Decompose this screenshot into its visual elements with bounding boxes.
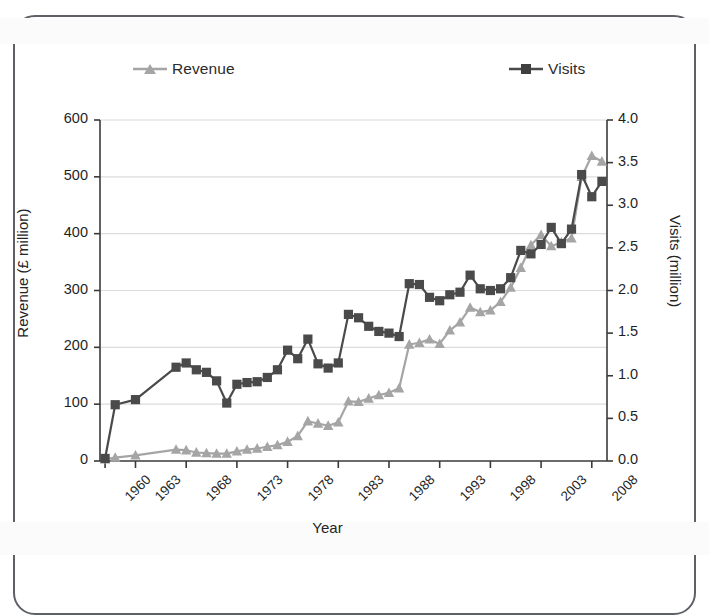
y-axis-left-tick-label: 300 [42,281,88,297]
y-axis-right-tick-label: 0.0 [618,451,664,467]
y-axis-left-title-text: Revenue (£ million) [14,168,31,378]
data-point [171,363,180,372]
triangle-marker-icon [133,62,167,76]
data-point [334,358,343,367]
data-point [344,310,353,319]
y-axis-left-title: Revenue (£ million) [14,0,31,168]
legend-entry-revenue[interactable]: Revenue [133,62,235,76]
data-point [202,368,211,377]
data-point [526,249,535,258]
data-point [547,223,556,232]
y-axis-right-tick-label: 2.5 [618,238,664,254]
x-axis-title: Year [0,519,655,536]
data-point [131,395,140,404]
data-point [597,177,606,186]
data-point [587,150,597,160]
y-axis-left-tick-label: 400 [42,224,88,240]
y-axis-left-tick-label: 600 [42,110,88,126]
data-point [293,354,302,363]
y-axis-right-tick-label: 2.0 [618,281,664,297]
y-axis-left-tick-label: 200 [42,337,88,353]
data-point [496,284,505,293]
axis-ticks [94,120,613,468]
data-point [424,334,434,344]
data-point [516,246,525,255]
data-point [466,271,475,280]
legend-label-revenue: Revenue [172,62,235,76]
data-point [567,225,576,234]
data-point [313,359,322,368]
data-point [222,398,231,407]
series-line [105,156,602,459]
data-series [100,150,607,463]
data-point [506,273,515,282]
data-point [282,436,292,446]
data-point [100,454,109,463]
data-point [253,377,262,386]
data-point [587,192,596,201]
data-point [394,383,404,393]
data-point [435,296,444,305]
y-axis-right-tick-label: 3.0 [618,195,664,211]
data-point [324,363,333,372]
series-visits [100,170,606,463]
data-point [505,282,515,292]
data-point [111,400,120,409]
data-point [283,346,292,355]
legend-entry-visits[interactable]: Visits [509,62,585,76]
data-point [242,378,251,387]
data-point [232,380,241,389]
data-point [303,416,313,426]
y-axis-left-tick-label: 100 [42,394,88,410]
square-marker-icon [509,62,543,76]
data-point [445,290,454,299]
legend-label-visits: Visits [548,62,585,76]
data-point [263,373,272,382]
data-point [192,365,201,374]
data-point [374,327,383,336]
y-axis-right-tick-label: 0.5 [618,408,664,424]
data-point [476,284,485,293]
y-axis-right-tick-label: 4.0 [618,110,664,126]
y-axis-left-tick-label: 500 [42,167,88,183]
data-point [455,288,464,297]
y-axis-right-title: Visits (million) [667,215,684,307]
data-point [425,293,434,302]
data-point [364,322,373,331]
data-point [597,156,607,166]
data-point [557,239,566,248]
data-point [577,170,586,179]
data-point [273,365,282,374]
gridlines [100,120,607,404]
data-point [354,313,363,322]
data-point [212,376,221,385]
series-revenue [100,150,607,463]
data-point [395,332,404,341]
data-point [536,240,545,249]
data-point [516,262,526,272]
data-point [384,329,393,338]
data-point [486,286,495,295]
data-point [415,280,424,289]
y-axis-right-tick-label: 1.0 [618,366,664,382]
data-point [333,417,343,427]
y-axis-right-tick-label: 1.5 [618,323,664,339]
series-line [105,175,602,459]
data-point [465,302,475,312]
data-point [303,334,312,343]
chart-legend: Revenue Visits [0,62,709,92]
data-point [405,279,414,288]
y-axis-left-tick-label: 0 [42,451,88,467]
y-axis-right-tick-label: 3.5 [618,153,664,169]
data-point [182,358,191,367]
